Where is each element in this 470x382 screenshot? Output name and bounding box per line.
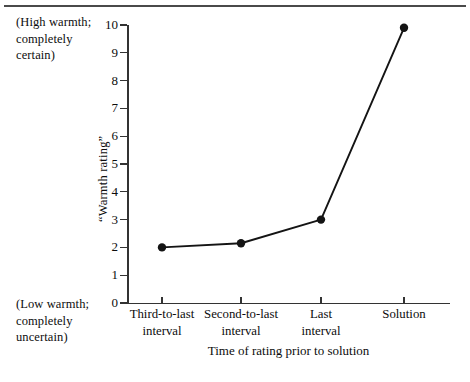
series-line	[162, 28, 404, 248]
data-series-layer	[0, 0, 470, 382]
data-point-marker	[158, 243, 166, 251]
series-markers	[158, 24, 408, 252]
data-point-marker	[400, 24, 408, 32]
figure-container: (High warmth; completely certain) (Low w…	[0, 0, 470, 382]
data-point-marker	[237, 239, 245, 247]
data-point-marker	[317, 215, 325, 223]
x-axis-title: Time of rating prior to solution	[127, 343, 450, 359]
